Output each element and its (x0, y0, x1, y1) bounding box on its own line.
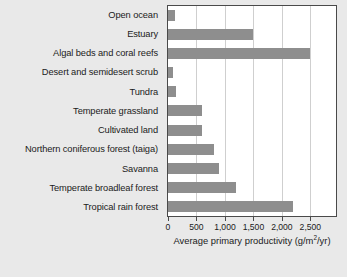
category-label: Estuary (0, 29, 163, 39)
bar-row (168, 29, 336, 40)
bar (168, 125, 202, 136)
category-label: Savanna (0, 164, 163, 174)
bar (168, 182, 236, 193)
x-tick-label: 500 (189, 222, 203, 232)
x-tick-label: 0 (166, 222, 171, 232)
category-label: Northern coniferous forest (taiga) (0, 144, 163, 154)
x-tick-label: 1,500 (243, 222, 265, 232)
x-tick-label: 2,500 (300, 222, 322, 232)
category-label: Open ocean (0, 10, 163, 20)
x-tick-label: 2,000 (271, 222, 293, 232)
bar-row (168, 48, 336, 59)
bar (168, 86, 176, 97)
category-label: Desert and semidesert scrub (0, 67, 163, 77)
x-tick (225, 217, 226, 221)
bar-row (168, 201, 336, 212)
bar (168, 48, 310, 59)
bar-row (168, 105, 336, 116)
bar (168, 29, 253, 40)
bar-series (168, 6, 336, 216)
bar (168, 144, 214, 155)
bar (168, 105, 202, 116)
bar-row (168, 86, 336, 97)
x-tick (196, 217, 197, 221)
category-label: Algal beds and coral reefs (0, 48, 163, 58)
bar (168, 163, 219, 174)
x-axis-title-superscript: 2 (313, 234, 317, 241)
x-axis: Average primary productivity (g/m2/yr) 0… (167, 217, 337, 277)
x-tick (282, 217, 283, 221)
bar-row (168, 67, 336, 78)
x-tick (310, 217, 311, 221)
bar-row (168, 182, 336, 193)
category-label: Temperate grassland (0, 106, 163, 116)
x-tick-label: 1,000 (214, 222, 236, 232)
primary-productivity-bar-chart: Open oceanEstuaryAlgal beds and coral re… (0, 0, 347, 277)
bar-row (168, 10, 336, 21)
bar-row (168, 163, 336, 174)
category-label: Cultivated land (0, 125, 163, 135)
category-label: Tundra (0, 87, 163, 97)
bar-row (168, 125, 336, 136)
bar (168, 201, 293, 212)
x-axis-title: Average primary productivity (g/m2/yr) (173, 235, 330, 246)
category-label: Tropical rain forest (0, 202, 163, 212)
category-label: Temperate broadleaf forest (0, 183, 163, 193)
bar (168, 67, 173, 78)
x-tick (168, 217, 169, 221)
bar-row (168, 144, 336, 155)
category-axis-labels: Open oceanEstuaryAlgal beds and coral re… (0, 5, 163, 217)
x-tick (253, 217, 254, 221)
bar (168, 10, 175, 21)
plot-area (167, 5, 337, 217)
